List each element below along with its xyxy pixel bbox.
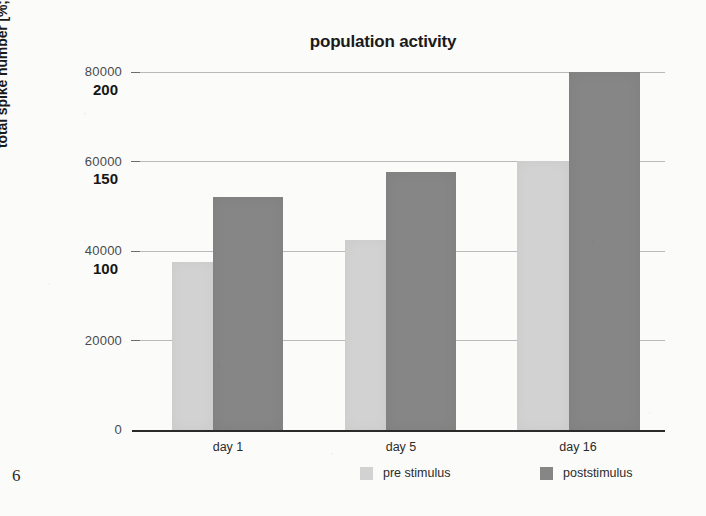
bar-day-1-pre-stimulus [172, 262, 213, 430]
secondary-y-tick-label-150: 150 [72, 170, 118, 187]
y-tick-mark-60000 [131, 161, 140, 162]
legend-item-pre-stimulus: pre stimulus [360, 466, 450, 480]
y-tick-label-80000: 80000 [52, 64, 122, 79]
y-tick-label-60000: 60000 [52, 154, 122, 169]
chart-title: population activity [0, 32, 706, 52]
legend-label-poststimulus: poststimulus [563, 466, 632, 480]
bar-day-16-pre-stimulus [517, 161, 569, 430]
bar-day-16-poststimulus [569, 72, 640, 430]
y-tick-label-0: 0 [52, 422, 122, 437]
legend-swatch-poststimulus [540, 467, 553, 480]
x-tick-label-day-1: day 1 [168, 440, 288, 454]
y-tick-mark-20000 [131, 340, 140, 341]
plot-area [140, 72, 665, 430]
legend-label-pre-stimulus: pre stimulus [383, 466, 450, 480]
bar-day-5-poststimulus [386, 172, 456, 430]
legend-item-poststimulus: poststimulus [540, 466, 632, 480]
page-number: 6 [12, 466, 21, 486]
x-tick-label-day-5: day 5 [341, 440, 461, 454]
x-axis-line [132, 430, 665, 432]
chart-legend: pre stimulus poststimulus [140, 466, 680, 486]
secondary-y-tick-label-100: 100 [72, 260, 118, 277]
y-tick-mark-80000 [131, 72, 140, 73]
legend-swatch-pre-stimulus [360, 467, 373, 480]
y-axis-title: total spike number [%;spikes] [0, 0, 10, 148]
bar-day-1-poststimulus [213, 197, 283, 430]
y-tick-mark-40000 [131, 251, 140, 252]
x-tick-label-day-16: day 16 [518, 440, 638, 454]
bar-day-5-pre-stimulus [345, 240, 386, 430]
y-tick-label-20000: 20000 [52, 333, 122, 348]
secondary-y-tick-label-200: 200 [72, 81, 118, 98]
y-tick-label-40000: 40000 [52, 243, 122, 258]
